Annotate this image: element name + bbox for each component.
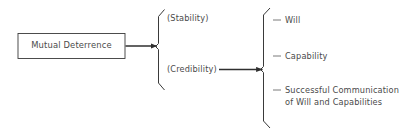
deterrence-diagram: Mutual Deterrence (Stability) (Credibili…	[0, 0, 408, 137]
stability-label: (Stability)	[167, 13, 209, 25]
stability-credibility-brace	[156, 10, 165, 91]
credibility-components-brace	[261, 8, 271, 128]
successful-communication-label: Successful Communication of Will and Cap…	[285, 85, 403, 108]
credibility-label: (Credibility)	[167, 64, 217, 76]
capability-label: Capability	[285, 51, 328, 63]
mutual-deterrence-label: Mutual Deterrence	[18, 33, 125, 58]
will-label: Will	[285, 15, 300, 27]
